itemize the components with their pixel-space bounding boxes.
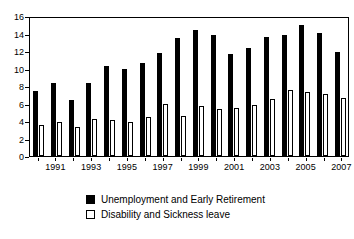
y-axis-tick-label: 2 [19, 135, 24, 144]
x-axis-slot-1993: 1993 [86, 158, 97, 174]
x-axis-slot-2005: 2005 [300, 158, 311, 174]
bar-group-2000 [211, 18, 222, 156]
x-axis-slot-2001: 2001 [229, 158, 240, 174]
x-axis-slot-1994 [104, 158, 115, 174]
x-axis-tick-mark [91, 158, 92, 161]
bar-disability-1998 [181, 116, 186, 156]
x-axis-tick-label: 2007 [331, 162, 351, 172]
bar-disability-1994 [110, 120, 115, 156]
legend-swatch-filled-square-icon [86, 195, 95, 204]
x-axis-tick-mark [181, 158, 182, 161]
x-axis-slot-2004 [282, 158, 293, 174]
plot-area [29, 17, 349, 157]
bar-unemployment-1994 [104, 66, 109, 156]
x-axis-slot-1997: 1997 [157, 158, 168, 174]
x-axis-tick-mark [73, 158, 74, 161]
y-axis-tick-label: 12 [14, 48, 24, 57]
x-axis-tick-mark [324, 158, 325, 161]
y-axis-tick-label: 8 [19, 83, 24, 92]
bar-disability-2002 [252, 105, 257, 156]
bar-disability-2000 [217, 109, 222, 156]
x-axis-tick-mark [306, 158, 307, 161]
x-axis-tick-label: 1993 [81, 162, 101, 172]
bar-group-2004 [282, 18, 293, 156]
bar-unemployment-2000 [211, 35, 216, 156]
x-axis-slot-2007: 2007 [336, 158, 347, 174]
bar-group-2006 [317, 18, 328, 156]
bar-unemployment-1993 [86, 83, 91, 157]
bar-unemployment-2003 [264, 37, 269, 156]
bar-group-1993 [86, 18, 97, 156]
y-axis-tick-label: 0 [19, 153, 24, 162]
x-axis-tick-mark [252, 158, 253, 161]
x-axis-slot-1990 [32, 158, 43, 174]
bar-unemployment-2004 [282, 35, 287, 156]
x-axis-slot-2003: 2003 [264, 158, 275, 174]
bar-group-2003 [264, 18, 275, 156]
x-axis-tick-mark [198, 158, 199, 161]
bar-group-1999 [193, 18, 204, 156]
x-axis-slot-1995: 1995 [121, 158, 132, 174]
bar-unemployment-1990 [33, 91, 38, 156]
bar-group-1995 [122, 18, 133, 156]
x-axis-tick-label: 2001 [224, 162, 244, 172]
bar-disability-1996 [146, 117, 151, 156]
bar-disability-1992 [75, 127, 80, 156]
x-axis-slot-1999: 1999 [193, 158, 204, 174]
x-axis-tick-mark [270, 158, 271, 161]
bar-group-1998 [175, 18, 186, 156]
bar-unemployment-1992 [69, 100, 74, 156]
x-axis-tick-mark [38, 158, 39, 161]
x-axis-slot-1992 [68, 158, 79, 174]
bar-group-2002 [246, 18, 257, 156]
bar-unemployment-1998 [175, 38, 180, 156]
y-axis-tick-label: 10 [14, 65, 24, 74]
bar-disability-2007 [341, 98, 346, 156]
bar-unemployment-1997 [157, 53, 162, 156]
bars-layer [30, 18, 348, 156]
x-axis-slot-1998 [175, 158, 186, 174]
legend-item-disability: Disability and Sickness leave [86, 207, 326, 222]
bar-disability-1997 [163, 104, 168, 157]
bar-group-1997 [157, 18, 168, 156]
x-axis-slot-2006 [318, 158, 329, 174]
x-axis-tick-label: 1997 [153, 162, 173, 172]
x-axis: 199119931995199719992001200320052007 [29, 158, 349, 174]
legend-swatch-outlined-square-icon [86, 210, 95, 219]
bar-unemployment-2001 [228, 54, 233, 156]
bar-disability-2003 [270, 99, 275, 156]
x-axis-slot-2002 [247, 158, 258, 174]
x-axis-tick-mark [55, 158, 56, 161]
x-axis-slot-1991: 1991 [50, 158, 61, 174]
y-axis-tick-label: 14 [14, 30, 24, 39]
bar-unemployment-2002 [246, 48, 251, 157]
y-axis-tick-label: 16 [14, 13, 24, 22]
bar-group-1992 [69, 18, 80, 156]
x-axis-tick-label: 1995 [117, 162, 137, 172]
bar-unemployment-2005 [299, 25, 304, 156]
x-axis-tick-mark [163, 158, 164, 161]
x-axis-tick-mark [234, 158, 235, 161]
bar-disability-1999 [199, 106, 204, 156]
bar-unemployment-1995 [122, 69, 127, 157]
x-axis-tick-mark [127, 158, 128, 161]
x-axis-slot-1996 [139, 158, 150, 174]
bar-unemployment-2006 [317, 33, 322, 156]
x-axis-slot-2000 [211, 158, 222, 174]
bar-disability-2006 [323, 94, 328, 156]
y-axis: 0246810121416 [0, 17, 29, 157]
x-axis-tick-mark [145, 158, 146, 161]
bar-unemployment-1996 [140, 63, 145, 156]
bar-unemployment-2007 [335, 52, 340, 156]
x-axis-tick-label: 2003 [260, 162, 280, 172]
bar-group-2005 [299, 18, 310, 156]
legend-label-unemployment: Unemployment and Early Retirement [101, 194, 265, 205]
bar-disability-2001 [234, 108, 239, 156]
x-axis-tick-label: 1991 [45, 162, 65, 172]
legend-item-unemployment: Unemployment and Early Retirement [86, 192, 326, 207]
x-axis-tick-mark [288, 158, 289, 161]
y-axis-tick-label: 4 [19, 118, 24, 127]
chart-legend: Unemployment and Early Retirement Disabi… [86, 192, 326, 222]
bar-disability-1991 [57, 122, 62, 156]
bar-group-1996 [140, 18, 151, 156]
